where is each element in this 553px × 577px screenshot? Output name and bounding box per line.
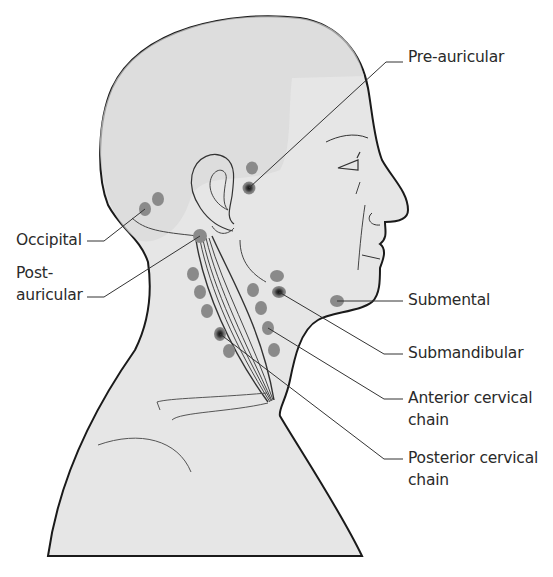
label-occipital: Occipital — [16, 229, 82, 251]
label-anterior-cervical-line1: Anterior cervical — [408, 387, 532, 409]
node-anterior-cervical-4 — [268, 343, 280, 357]
node-posterior-cervical-1 — [187, 267, 199, 281]
label-pre-auricular: Pre-auricular — [408, 46, 504, 68]
node-occipital-2 — [152, 192, 164, 206]
label-submental: Submental — [408, 289, 490, 311]
label-post-auricular-line1: Post- — [16, 262, 53, 284]
node-posterior-cervical-2 — [194, 285, 206, 299]
label-posterior-cervical-line2: chain — [408, 469, 449, 491]
node-pre-auricular-upper — [246, 162, 258, 175]
node-anterior-cervical-1 — [247, 283, 259, 297]
label-posterior-cervical-line1: Posterior cervical — [408, 447, 538, 469]
label-submandibular: Submandibular — [408, 342, 523, 364]
node-submandibular-1 — [270, 270, 284, 282]
node-posterior-cervical-3 — [201, 304, 213, 318]
label-anterior-cervical-line2: chain — [408, 409, 449, 431]
node-posterior-cervical-5 — [223, 344, 235, 358]
label-post-auricular-line2: auricular — [16, 284, 83, 306]
node-anterior-cervical-2 — [255, 301, 267, 315]
